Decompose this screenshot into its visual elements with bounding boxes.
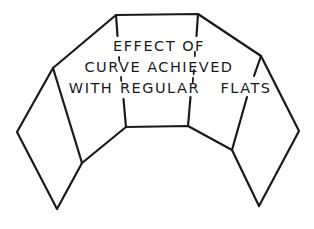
diagram-caption: EFFECT OF CURVE ACHIEVED WITH REGULAR FL…	[69, 38, 272, 96]
caption-line-3-word-2: REGULAR	[120, 80, 200, 96]
caption-line-1: EFFECT OF	[113, 38, 205, 54]
caption-line-2: CURVE ACHIEVED	[84, 59, 233, 75]
right-joint	[232, 56, 261, 150]
bottom-inner-outline	[82, 126, 259, 206]
curved-flats-diagram: EFFECT OF CURVE ACHIEVED WITH REGULAR FL…	[0, 0, 314, 229]
caption-line-3-word-3: FLATS	[220, 80, 271, 96]
caption-line-3-word-1: WITH	[69, 80, 113, 96]
